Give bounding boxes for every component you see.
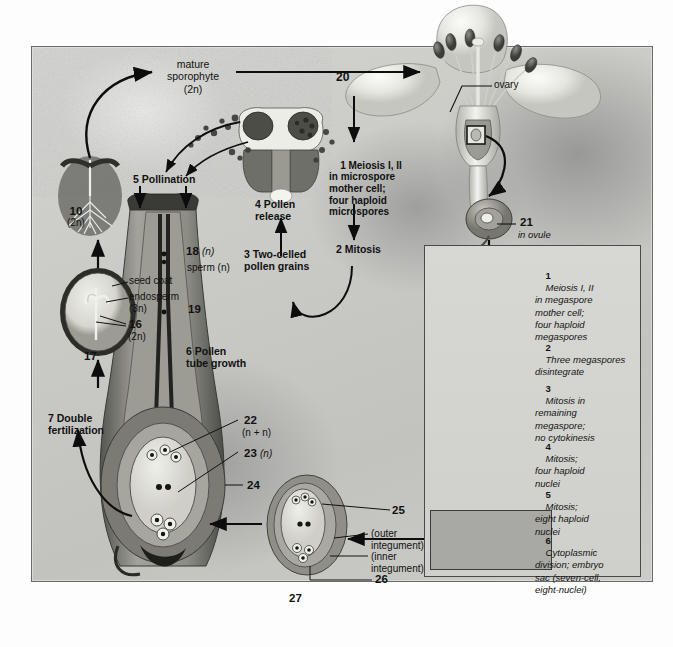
number-20-label: 20 [336, 70, 349, 84]
in-ovule-label: in ovule [518, 229, 551, 240]
step-6-tube-growth-label: 6 Pollen tube growth [186, 345, 246, 370]
step-2-mitosis-label: 2 Mitosis [336, 243, 381, 255]
step-1-number: 1 Meiosis I, II in microspore mother cel… [329, 160, 402, 218]
number-18-ploidy-label: (n) [202, 246, 214, 258]
step-7-fertilization-label: 7 Double fertilization [48, 412, 104, 437]
ovary-label: ovary [494, 79, 518, 91]
step-4-pollen-release-label: 4 Pollen release [255, 198, 295, 223]
number-18-label: 18 [186, 245, 199, 258]
inset-step-1-num: 1 [546, 270, 554, 281]
seed-coat-label: seed coat [129, 275, 172, 287]
seedling-ploidy-label: (2n) [56, 217, 96, 229]
number-25-label: 25 [392, 504, 405, 517]
number-16-ploidy-label: (2n) [128, 331, 146, 343]
step-1-microspore-label: 1 Meiosis I, II in microspore mother cel… [329, 148, 402, 230]
number-24-label: 24 [247, 479, 260, 492]
number-16-label: 16 [129, 318, 142, 331]
number-19-label: 19 [188, 303, 201, 316]
inset-step-4-num: 4 [546, 441, 554, 452]
sperm-label: sperm (n) [187, 262, 230, 274]
number-26-label: 26 [375, 573, 388, 586]
number-21-label: 21 [520, 216, 533, 229]
outer-integument-label: (outer integument) [371, 528, 424, 551]
step-5-pollination-label: 5 Pollination [133, 173, 195, 185]
embryo-sac-highlight-box [430, 510, 552, 570]
inset-step-2-num: 2 [546, 342, 554, 353]
inset-step-6-num: 6 [546, 535, 554, 546]
number-17-label: 17 [84, 350, 97, 363]
step-3-pollen-grains-label: 3 Two-celled pollen grains [244, 248, 309, 273]
number-23-label: 23 [244, 447, 257, 460]
number-27-label: 27 [289, 592, 302, 605]
endosperm-label: endosperm [129, 291, 179, 303]
inset-step-6-text: Cytoplasmic division; embryo sac (seven-… [535, 547, 604, 594]
life-cycle-figure: 1 Meiosis I, II in megaspore mother cell… [0, 0, 673, 647]
endosperm-ploidy-label: (3n) [129, 303, 147, 315]
inset-step-5-num: 5 [546, 489, 554, 500]
inset-step-6: 6 Cytoplasmic division; embryo sac (seve… [535, 523, 604, 608]
number-23-ploidy-label: (n) [260, 448, 272, 460]
number-22-label: 22 [244, 414, 257, 427]
inset-step-3-num: 3 [546, 383, 554, 394]
number-22-ploidy-label: (n + n) [242, 427, 271, 439]
mature-sporophyte-label: mature sporophyte (2n) [143, 58, 243, 95]
inner-integument-label: (inner integument) [371, 551, 424, 574]
